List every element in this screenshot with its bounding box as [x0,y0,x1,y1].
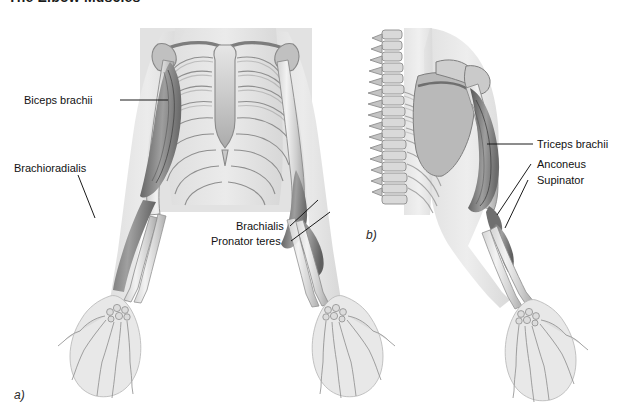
label-brachioradialis: Brachioradialis [14,162,86,174]
label-supinator: Supinator [537,174,584,186]
label-anconeus: Anconeus [537,158,586,170]
right-arm-anterior [277,60,395,398]
elbow-muscles-figure: The Elbow Muscles Biceps brachii Brachio… [0,0,626,416]
panel-caption-a: a) [14,388,25,402]
anatomy-illustration [0,0,626,416]
panel-a-anterior [58,28,395,398]
hand-skeleton-posterior [505,300,588,402]
vertebral-column [368,30,407,204]
label-biceps-brachii: Biceps brachii [24,94,92,106]
hand-skeleton-right [312,296,395,398]
leader-brachioradialis [78,175,95,218]
hand-skeleton-left [58,296,141,398]
left-arm-anterior [58,60,181,398]
label-triceps-brachii: Triceps brachii [537,138,608,150]
leader-anconeus [497,164,531,215]
panel-b-posterior [368,28,588,402]
label-brachialis: Brachialis [236,220,284,232]
label-pronator-teres: Pronator teres [211,235,281,247]
page-title: The Elbow Muscles [8,0,141,5]
panel-caption-b: b) [366,228,377,242]
leader-supinator [505,180,528,228]
